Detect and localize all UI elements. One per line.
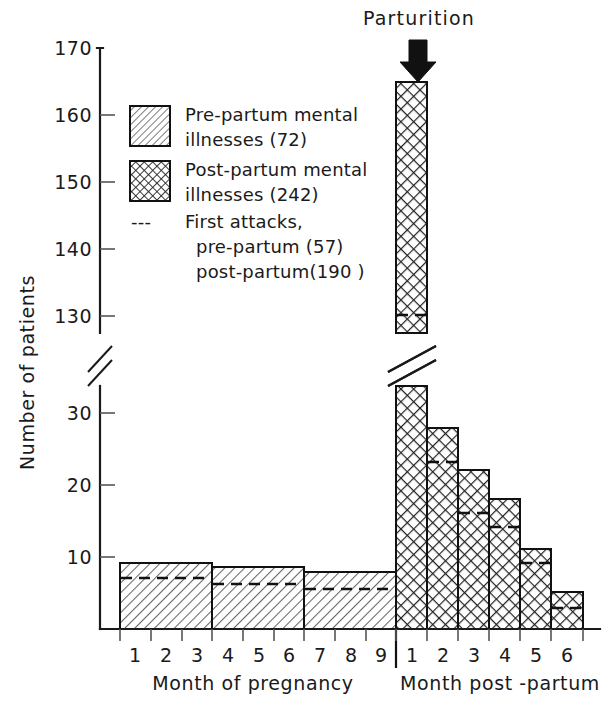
x-tick-preg-3: 3 (191, 644, 203, 666)
x-tick-preg-8: 8 (345, 644, 357, 666)
x-tick-preg-5: 5 (253, 644, 265, 666)
legend-swatch-post-partum (130, 161, 170, 201)
bar-post-month-3 (458, 470, 489, 629)
y-tick-160: 160 (54, 104, 92, 126)
legend-label-first-attacks-post: post-partum(190 ) (196, 261, 365, 282)
x-axis-title-pregnancy: Month of pregnancy (152, 672, 353, 694)
bar-pre-trimester-1 (120, 563, 212, 629)
y-axis-lower-ticks (100, 413, 115, 557)
bar-pre-trimester-3 (304, 572, 396, 629)
bar-post-month-6 (551, 592, 583, 629)
legend-label-post-partum-line2: illnesses (242) (185, 184, 319, 205)
parturition-arrow-icon (400, 40, 436, 82)
bar-pre-trimester-2 (212, 567, 304, 629)
y-tick-140: 140 (54, 238, 92, 260)
chart-figure: Parturition 170 160 150 140 130 30 20 10… (0, 0, 607, 702)
y-tick-30: 30 (67, 402, 92, 424)
y-tick-130: 130 (54, 305, 92, 327)
x-tick-post-2: 2 (437, 644, 449, 666)
y-tick-150: 150 (54, 171, 92, 193)
x-tick-preg-4: 4 (222, 644, 234, 666)
y-axis-title: Number of patients (16, 275, 38, 470)
bar-post-month-1-lower (396, 386, 427, 629)
x-tick-preg-2: 2 (160, 644, 172, 666)
x-axis-ticks (120, 629, 583, 641)
x-tick-preg-1: 1 (129, 644, 141, 666)
bars-pre-partum (120, 563, 396, 629)
y-axis-upper-ticks (100, 115, 115, 316)
bar-post-month-2 (427, 428, 458, 629)
legend-label-pre-partum-line1: Pre-partum mental (185, 104, 358, 125)
x-tick-preg-6: 6 (283, 644, 295, 666)
legend-dash-glyph-icon: --- (131, 211, 151, 232)
legend-label-post-partum-line1: Post-partum mental (185, 159, 367, 180)
x-tick-post-4: 4 (499, 644, 511, 666)
x-tick-post-6: 6 (561, 644, 573, 666)
x-tick-post-3: 3 (468, 644, 480, 666)
x-tick-preg-9: 9 (375, 644, 387, 666)
legend-label-first-attacks-pre: pre-partum (57) (196, 236, 344, 257)
y-tick-10: 10 (67, 546, 92, 568)
x-axis-title-postpartum: Month post -partum (400, 672, 600, 694)
bar-post-month-1-upper (396, 82, 427, 333)
y-tick-20: 20 (67, 474, 92, 496)
legend-swatch-pre-partum (130, 106, 170, 146)
x-tick-post-5: 5 (530, 644, 542, 666)
x-tick-post-1: 1 (406, 644, 418, 666)
x-tick-labels-pregnancy: 1 2 3 4 5 6 7 8 9 (129, 644, 387, 666)
y-tick-170: 170 (54, 37, 92, 59)
legend-label-pre-partum-line2: illnesses (72) (185, 129, 307, 150)
chart-legend: Pre-partum mental illnesses (72) Post-pa… (130, 104, 367, 282)
bars-post-partum (388, 82, 583, 629)
legend-label-first-attacks-line1: First attacks, (185, 211, 303, 232)
x-tick-preg-7: 7 (314, 644, 326, 666)
bar-post-month-5 (520, 549, 551, 629)
chart-canvas: Parturition 170 160 150 140 130 30 20 10… (0, 0, 607, 702)
x-tick-labels-postpartum: 1 2 3 4 5 6 (406, 644, 573, 666)
chart-title: Parturition (363, 7, 475, 29)
bar-post-month-4 (489, 499, 520, 629)
